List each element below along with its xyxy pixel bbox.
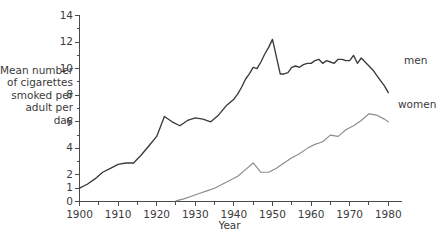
cigarette-consumption-chart: Mean number of cigarettes smoked per adu… (0, 0, 445, 234)
chart-axes (75, 15, 402, 207)
x-tick-label: 1920 (135, 208, 179, 220)
y-tick-label: 2 (40, 168, 73, 180)
y-tick-label: 8 (40, 88, 73, 100)
x-tick-label: 1910 (96, 208, 140, 220)
series-line-women (176, 114, 388, 201)
y-tick-label: 14 (40, 9, 73, 21)
x-tick-label: 1900 (58, 208, 102, 220)
x-tick-label: 1950 (250, 208, 294, 220)
x-tick-label: 1970 (328, 208, 372, 220)
chart-series-lines (80, 39, 389, 200)
x-tick-label: 1930 (173, 208, 217, 220)
series-line-men (80, 39, 389, 188)
y-tick-label: 0 (40, 195, 73, 207)
y-tick-label: 1 (40, 181, 73, 193)
x-tick-label: 1960 (289, 208, 333, 220)
y-tick-label: 4 (40, 141, 73, 153)
y-tick-label: 12 (40, 35, 73, 47)
x-axis-title: Year (0, 219, 445, 231)
x-tick-label: 1980 (366, 208, 410, 220)
x-tick-label: 1940 (212, 208, 256, 220)
y-tick-label: 10 (40, 62, 73, 74)
series-label-men: men (404, 54, 427, 66)
series-label-women: women (398, 98, 436, 110)
y-tick-label: 6 (40, 115, 73, 127)
